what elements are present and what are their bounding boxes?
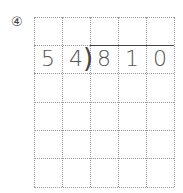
divisor-digit: 5 xyxy=(34,45,62,73)
grid-line xyxy=(34,102,174,103)
dividend-digit: 0 xyxy=(146,45,174,73)
dividend-digit: 1 xyxy=(118,45,146,73)
grid-line xyxy=(34,130,174,131)
grid-line xyxy=(174,17,175,187)
grid-line xyxy=(34,73,174,74)
grid-line xyxy=(34,158,174,159)
answer-grid xyxy=(34,17,174,187)
grid-line xyxy=(34,17,174,18)
problem-number-label: ④ xyxy=(11,15,23,29)
dividend-digit: 8 xyxy=(90,45,118,73)
grid-line xyxy=(34,187,174,188)
